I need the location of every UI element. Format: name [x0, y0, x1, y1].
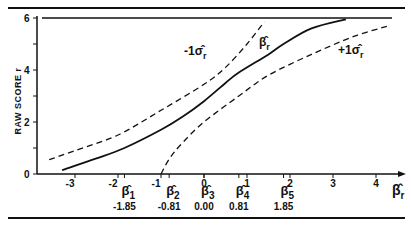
beta-marker-label: β̂1 [121, 183, 135, 201]
y-tick-label: 2 [24, 117, 30, 128]
beta-marker-value: 1.85 [274, 201, 294, 212]
x-tick-label: 3 [330, 178, 336, 189]
x-tick-label: -3 [66, 178, 75, 189]
y-tick-label: 6 [24, 13, 30, 24]
beta-marker-value: -1.85 [113, 201, 136, 212]
beta-curve-label: β̂r [259, 35, 270, 52]
raw-score-chart: 0246RAW SCORE r-3-2-101234β̂1-1.85β̂2-0.… [0, 0, 411, 226]
minus-sigma-curve [49, 22, 264, 160]
plus-sigma-label: +1σ̂r [338, 43, 364, 60]
x-axis-arrow-icon [398, 171, 406, 177]
minus-sigma-label: -1σ̂r [184, 44, 207, 61]
beta-marker-value: 0.81 [229, 201, 249, 212]
y-tick-label: 0 [24, 169, 30, 180]
y-tick-label: 4 [24, 65, 30, 76]
x-tick-label: 1 [244, 178, 250, 189]
beta-marker-value: 0.00 [194, 201, 214, 212]
beta-marker-value: -0.81 [158, 201, 181, 212]
x-tick-label: -1 [152, 178, 161, 189]
beta-curve [62, 19, 346, 170]
beta-marker-label: β̂2 [166, 183, 180, 201]
x-tick-label: -2 [109, 178, 118, 189]
beta-marker-label: β̂3 [201, 183, 215, 201]
y-axis-label: RAW SCORE r [13, 67, 23, 134]
x-axis-label: β̂r [392, 182, 405, 201]
x-tick-label: 4 [373, 178, 379, 189]
